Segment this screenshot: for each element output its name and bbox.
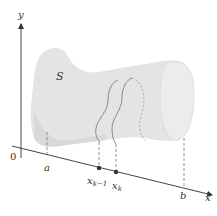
point-xk [114,170,118,174]
xk-1-label: xk−1 [87,175,107,188]
xk-label: xk [112,180,122,193]
b-label: b [180,190,186,201]
x-axis-label: x [205,192,211,203]
a-label: a [44,162,50,173]
solid-end-cap [160,61,194,140]
solid-label: S [56,70,64,83]
point-xk-1 [97,166,101,170]
volume-slice-diagram: y x 0 S a xk−1 xk b [0,0,217,216]
origin-label: 0 [10,151,16,162]
y-axis-label: y [17,9,24,20]
